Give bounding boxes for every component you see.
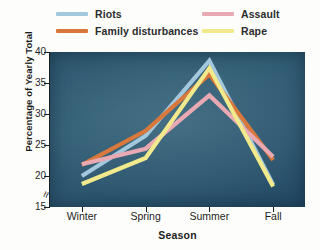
legend-item-riots: Riots	[56, 9, 122, 20]
legend-item-family-disturbances: Family disturbances	[56, 26, 198, 37]
x-tick-mark	[82, 207, 83, 212]
x-tick-mark	[146, 207, 147, 212]
legend-swatch-rape	[202, 29, 234, 33]
legend-label-family-disturbances: Family disturbances	[95, 26, 198, 37]
chart-legend: Riots Family disturbances Assault Rape	[56, 8, 312, 44]
y-tick-label: 25	[20, 140, 46, 150]
series-lines	[50, 52, 305, 207]
legend-label-rape: Rape	[241, 26, 267, 37]
x-tick-mark	[273, 207, 274, 212]
x-axis-title: Season	[50, 229, 305, 241]
x-tick-label: Spring	[116, 211, 176, 222]
legend-swatch-family-disturbances	[56, 29, 88, 33]
legend-label-assault: Assault	[241, 9, 280, 20]
legend-label-riots: Riots	[95, 9, 122, 20]
x-tick-mark	[209, 207, 210, 212]
y-tick-label: 35	[20, 78, 46, 88]
y-tick-label: 40	[20, 47, 46, 57]
y-tick-label: 15	[20, 202, 46, 212]
legend-swatch-assault	[202, 12, 234, 16]
chart-figure: Riots Family disturbances Assault Rape P…	[0, 0, 320, 250]
x-tick-label: Fall	[243, 211, 303, 222]
legend-item-assault: Assault	[202, 9, 280, 20]
legend-item-rape: Rape	[202, 26, 267, 37]
y-tick-label: 20	[20, 171, 46, 181]
y-tick-label: 30	[20, 109, 46, 119]
y-tick-mark	[44, 207, 50, 208]
legend-swatch-riots	[56, 12, 88, 16]
x-tick-label: Summer	[179, 211, 239, 222]
x-tick-label: Winter	[52, 211, 112, 222]
plot-area	[50, 52, 305, 207]
